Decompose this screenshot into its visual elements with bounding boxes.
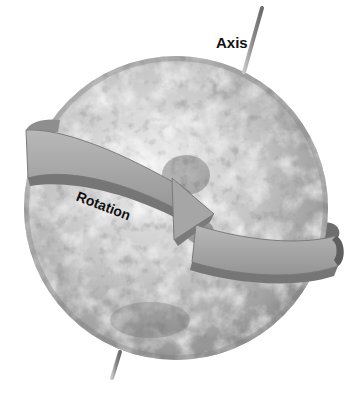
- axis-label: Axis: [216, 34, 248, 51]
- axis-rod-south: [112, 352, 120, 378]
- earth-rotation-diagram: [0, 0, 355, 403]
